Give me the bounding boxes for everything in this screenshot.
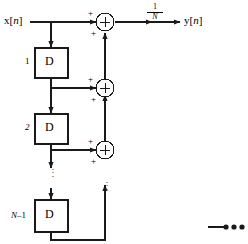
- tap-number-2: 2: [25, 123, 30, 132]
- gain-denominator: N: [147, 13, 163, 21]
- block-diagram-figure: x[n] y[n] 1 N D D D 1 2 N–1 + + + + + + …: [0, 0, 248, 244]
- delay-block-1-label: D: [45, 55, 54, 67]
- adder-2-plus-top: +: [88, 75, 93, 84]
- tap-number-N: N–1: [11, 211, 26, 220]
- tap-number-1: 1: [25, 57, 30, 66]
- gain-numerator: 1: [147, 3, 163, 11]
- input-signal-label: x[n]: [4, 15, 22, 26]
- output-signal-label: y[n]: [184, 15, 202, 26]
- delay-block-2-label: D: [45, 121, 54, 133]
- diagram-canvas: [0, 0, 248, 244]
- corner-dots: [223, 224, 244, 229]
- adder-1-plus-bottom: +: [91, 29, 96, 38]
- adder-2-plus-bottom: +: [91, 95, 96, 104]
- delay-chain-ellipsis: ⋮: [48, 168, 58, 178]
- adder-column-ellipsis: ⋮: [102, 181, 112, 191]
- adder-3-plus-top: +: [88, 137, 93, 146]
- adder-1-plus-top: +: [88, 9, 93, 18]
- delay-block-N-label: D: [45, 208, 54, 220]
- gain-label: 1 N: [147, 3, 163, 22]
- adder-3-plus-bottom: +: [91, 157, 96, 166]
